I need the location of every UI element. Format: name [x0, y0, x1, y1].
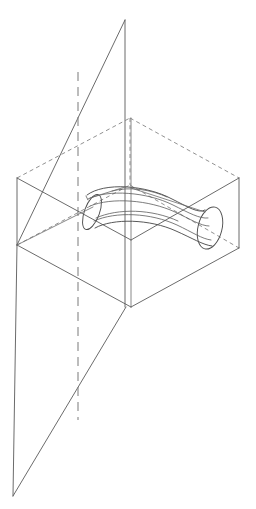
figure-root	[0, 0, 256, 509]
curved-tube-group	[79, 187, 227, 252]
construction-line-left-vertex-to-tube	[17, 207, 93, 245]
tube-contour-upper-second	[90, 201, 209, 226]
tube-right-end-cap	[193, 204, 227, 252]
cutting-plane-edge-bottom	[13, 307, 126, 496]
technical-drawing-svg	[0, 0, 256, 509]
box-edge-bottom-front-right	[131, 248, 239, 307]
tube-left-cap-upper-join	[86, 196, 88, 200]
cutting-plane-group	[13, 20, 126, 496]
box-edge-bottom-left-front	[17, 245, 131, 307]
cutting-plane-edge-left-vertical	[13, 245, 17, 496]
box-visible-edges-group	[17, 178, 239, 307]
construction-line-apex-to-right-tube	[131, 188, 205, 212]
box-hidden-edge-left-back-bottom	[17, 185, 130, 245]
box-edge-top-front-right	[131, 178, 239, 240]
construction-line-apex-to-left-tube	[90, 187, 125, 198]
box-hidden-edge-back-right-top	[130, 118, 239, 178]
cutting-plane-edge-top-right	[17, 20, 125, 245]
